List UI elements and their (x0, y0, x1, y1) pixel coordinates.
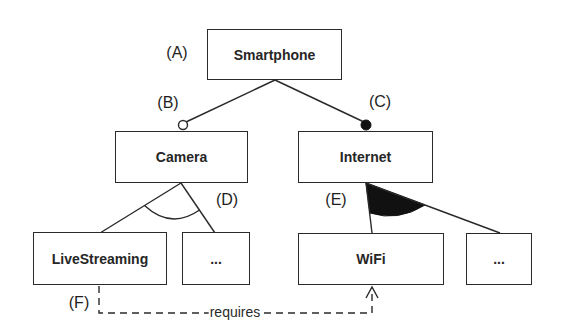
feature-model-diagram: Smartphone Camera Internet LiveStreaming… (0, 0, 561, 334)
node-internet: Internet (298, 131, 433, 183)
optional-marker-icon (179, 121, 188, 130)
marker-b: (B) (157, 94, 178, 112)
marker-c: (C) (369, 93, 391, 111)
marker-a: (A) (166, 44, 187, 62)
mandatory-marker-icon (361, 120, 371, 130)
alternative-group-arc-icon (145, 206, 200, 219)
node-livestreaming: LiveStreaming (33, 232, 167, 285)
node-wifi-label: WiFi (356, 251, 385, 267)
marker-d: (D) (216, 191, 238, 209)
requires-label: requires (209, 304, 262, 320)
edge-smartphone-camera (186, 80, 275, 122)
marker-e: (E) (325, 191, 346, 209)
node-smartphone: Smartphone (207, 29, 342, 80)
node-internet-more: ... (466, 233, 532, 285)
marker-f: (F) (69, 294, 89, 312)
node-livestreaming-label: LiveStreaming (52, 251, 148, 267)
node-wifi: WiFi (298, 233, 444, 285)
node-camera-more-label: ... (210, 251, 222, 267)
edge-camera-livestreaming (100, 183, 181, 233)
node-camera: Camera (115, 131, 248, 183)
node-internet-more-label: ... (493, 251, 505, 267)
node-camera-more: ... (182, 232, 250, 285)
node-internet-label: Internet (340, 149, 391, 165)
node-smartphone-label: Smartphone (234, 47, 316, 63)
edge-smartphone-internet (275, 80, 364, 122)
edge-camera-more (181, 183, 215, 233)
or-group-arc-icon (366, 183, 425, 216)
node-camera-label: Camera (156, 149, 207, 165)
